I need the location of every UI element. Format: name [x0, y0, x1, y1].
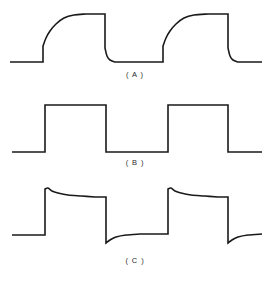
waveform-panel-c: ( C ): [0, 183, 270, 289]
waveform-figure: ( A ) ( B ) ( C ): [0, 0, 270, 289]
panel-label-a: ( A ): [0, 70, 270, 79]
waveform-plot-b: [0, 95, 270, 157]
waveform-trace-b: [12, 105, 262, 152]
waveform-plot-c: [0, 183, 270, 253]
panel-label-b: ( B ): [0, 158, 270, 167]
waveform-trace-a: [10, 14, 262, 62]
waveform-trace-c: [12, 188, 262, 243]
waveform-panel-a: ( A ): [0, 0, 270, 95]
panel-label-c: ( C ): [0, 256, 270, 265]
waveform-plot-a: [0, 0, 270, 72]
waveform-panel-b: ( B ): [0, 95, 270, 183]
